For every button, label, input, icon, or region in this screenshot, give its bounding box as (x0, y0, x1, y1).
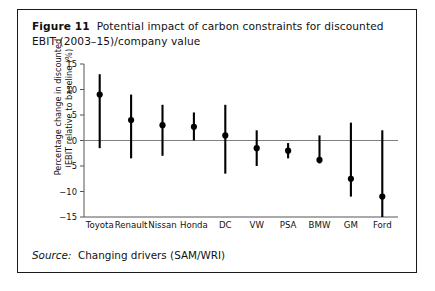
x-axis-category-label: DC (219, 220, 232, 230)
central-estimate-marker (159, 122, 165, 128)
data-point-group (97, 74, 103, 148)
x-axis-category-label: Nissan (148, 220, 176, 230)
x-axis-category-label: VW (250, 220, 265, 230)
x-axis-category-label: PSA (280, 220, 297, 230)
y-axis-tick-label: 15 (66, 59, 77, 69)
figure-caption: Figure 11 Potential impact of carbon con… (32, 19, 404, 49)
y-axis-tick-label: −10 (59, 187, 77, 197)
figure-number: Figure 11 (32, 20, 90, 32)
y-axis-tick-label: −15 (59, 212, 77, 222)
data-point-group (316, 135, 322, 163)
central-estimate-marker (348, 176, 354, 182)
data-point-group (254, 130, 260, 166)
source-text: Changing drivers (SAM/WRI) (78, 249, 225, 261)
data-point-group (191, 112, 197, 140)
data-point-group (285, 143, 291, 158)
data-point-group (159, 105, 165, 156)
x-axis-category-label: GM (344, 220, 358, 230)
central-estimate-marker (285, 148, 291, 154)
source-label: Source: (32, 249, 71, 261)
central-estimate-marker (222, 132, 228, 138)
x-axis-category-label: Renault (115, 220, 148, 230)
central-estimate-marker (254, 145, 260, 151)
chart-plot-area: Percentage change in discounted EBIT rel… (32, 58, 404, 243)
y-axis-tick-label: 10 (66, 85, 77, 95)
data-point-group (128, 95, 134, 159)
y-axis-tick-label: 0 (72, 136, 77, 146)
figure-box: Figure 11 Potential impact of carbon con… (17, 9, 417, 273)
central-estimate-marker (316, 157, 322, 163)
x-axis-category-label: Toyota (85, 220, 114, 230)
range-plot-svg: 151050−5−10−15ToyotaRenaultNissanHondaDC… (32, 58, 404, 243)
data-point-group (379, 130, 385, 217)
central-estimate-marker (379, 194, 385, 200)
x-axis-category-label: BMW (309, 220, 331, 230)
data-point-group (348, 123, 354, 197)
x-axis-category-label: Ford (373, 220, 392, 230)
central-estimate-marker (128, 117, 134, 123)
y-axis-tick-label: −5 (65, 161, 77, 171)
source-note: Source: Changing drivers (SAM/WRI) (32, 249, 225, 261)
y-axis-tick-label: 5 (72, 110, 77, 120)
data-point-group (222, 105, 228, 174)
x-axis-category-label: Honda (180, 220, 208, 230)
central-estimate-marker (97, 92, 103, 98)
central-estimate-marker (191, 124, 197, 130)
